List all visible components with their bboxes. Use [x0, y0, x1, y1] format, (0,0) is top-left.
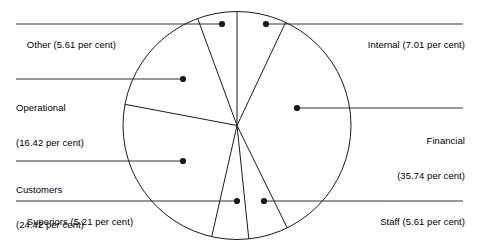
leader-dot-customers	[180, 158, 186, 164]
slice-label-operational-value: (16.42 per cent)	[16, 137, 84, 149]
pie-chart-figure: Other (5.61 per cent) Internal (7.01 per…	[0, 0, 479, 252]
slice-label-operational: Operational (16.42 per cent)	[16, 79, 84, 171]
slice-label-customers-name: Customers	[16, 184, 84, 196]
leader-dot-financial	[294, 105, 300, 111]
slice-label-financial-name: Financial	[397, 135, 465, 147]
leader-dot-other	[219, 21, 225, 27]
slice-label-superiors-text: Superiors (5.21 per cent)	[27, 216, 133, 227]
slice-label-staff: Staff (5.61 per cent)	[369, 204, 465, 239]
leader-dot-superiors	[234, 198, 240, 204]
leader-dot-internal	[263, 21, 269, 27]
pie-slice-group	[123, 12, 351, 240]
slice-label-operational-name: Operational	[16, 102, 84, 114]
slice-label-financial: Financial (35.74 per cent)	[397, 112, 465, 204]
leader-dot-staff	[261, 198, 267, 204]
leader-dot-operational	[180, 76, 186, 82]
slice-label-other-text: Other (5.61 per cent)	[27, 39, 116, 50]
slice-label-financial-value: (35.74 per cent)	[397, 170, 465, 182]
slice-label-internal: Internal (7.01 per cent)	[357, 27, 465, 62]
slice-label-other: Other (5.61 per cent)	[16, 27, 116, 62]
slice-label-superiors: Superiors (5.21 per cent)	[16, 204, 133, 239]
slice-label-staff-text: Staff (5.61 per cent)	[380, 216, 465, 227]
slice-label-internal-text: Internal (7.01 per cent)	[368, 39, 465, 50]
